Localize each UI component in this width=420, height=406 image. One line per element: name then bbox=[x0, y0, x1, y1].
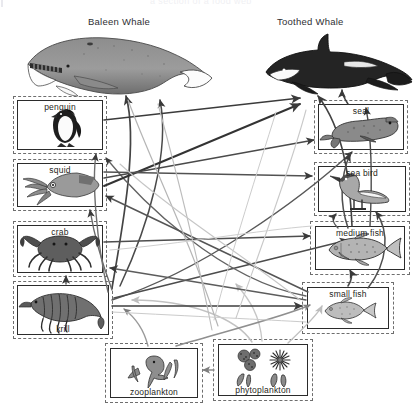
node-crab[interactable]: crab bbox=[17, 225, 103, 273]
node-squid[interactable]: squid bbox=[17, 163, 103, 207]
baleen-whale-label: Baleen Whale bbox=[88, 16, 150, 27]
node-small-fish[interactable]: small fish bbox=[307, 287, 389, 329]
sea-bird-label: sea bird bbox=[318, 168, 406, 178]
toothed-whale-label: Toothed Whale bbox=[277, 16, 344, 27]
crab-label: crab bbox=[17, 227, 103, 237]
penguin-label: penguin bbox=[17, 102, 103, 112]
node-phytoplankton[interactable]: phytoplankton bbox=[218, 344, 308, 396]
node-medium-fish[interactable]: medium fish bbox=[315, 226, 405, 270]
phytoplankton-label: phytoplankton bbox=[218, 385, 308, 395]
squid-label: squid bbox=[17, 165, 103, 175]
node-penguin[interactable]: penguin bbox=[17, 100, 103, 150]
food-web-diagram: a section of a food web bbox=[0, 0, 420, 406]
node-zooplankton[interactable]: zooplankton bbox=[110, 348, 198, 398]
toothed-whale-illustration bbox=[248, 32, 414, 98]
medium-fish-label: medium fish bbox=[315, 228, 405, 238]
zooplankton-label: zooplankton bbox=[110, 387, 198, 397]
node-sea-bird[interactable]: sea bird bbox=[318, 166, 406, 212]
small-fish-label: small fish bbox=[307, 289, 389, 299]
page-edge-mark bbox=[1, 0, 3, 7]
cropped-header-text: a section of a food web bbox=[150, 0, 410, 6]
seal-label: seal bbox=[318, 106, 404, 116]
node-seal[interactable]: seal bbox=[318, 104, 404, 150]
baleen-whale-illustration bbox=[14, 30, 218, 100]
node-krill[interactable]: krill bbox=[17, 285, 109, 335]
krill-label: krill bbox=[17, 324, 109, 334]
